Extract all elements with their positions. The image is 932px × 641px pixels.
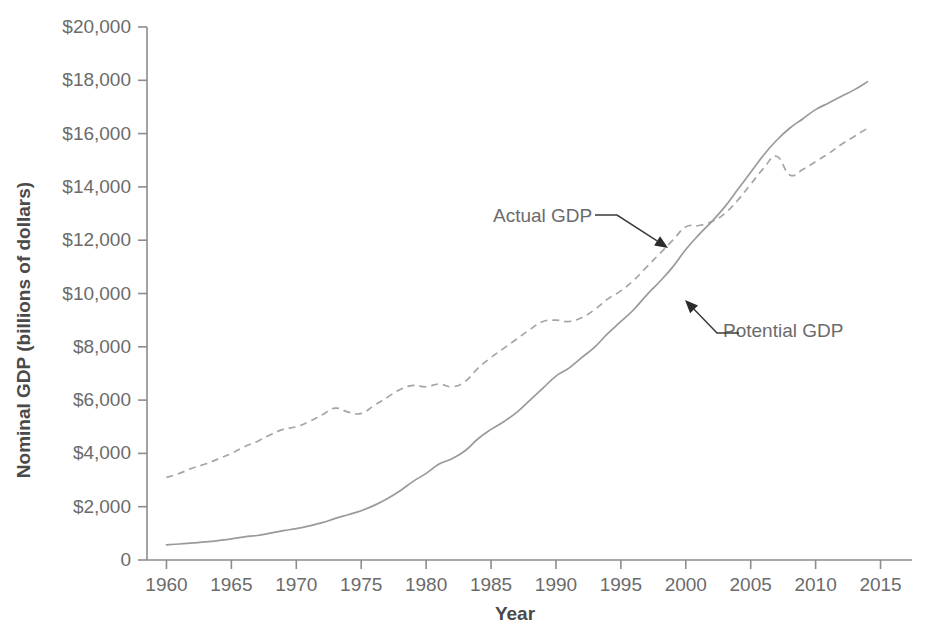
potential-gdp-annotation-label: Potential GDP — [723, 320, 843, 341]
actual-gdp-annotation-label: Actual GDP — [493, 205, 592, 226]
x-tick-label: 1980 — [405, 574, 447, 595]
x-tick-label: 2015 — [859, 574, 901, 595]
x-tick-label: 1990 — [535, 574, 577, 595]
x-tick-label: 1995 — [600, 574, 642, 595]
y-axis-tick-marks — [138, 27, 147, 560]
y-axis-tick-labels: 0$2,000$4,000$6,000$8,000$10,000$12,000$… — [62, 16, 131, 570]
y-tick-label: $16,000 — [62, 123, 131, 144]
x-tick-label: 1985 — [470, 574, 512, 595]
x-axis-tick-marks — [166, 560, 880, 569]
y-axis-title: Nominal GDP (billions of dollars) — [13, 182, 34, 478]
actual-gdp-annotation-arrowhead — [654, 236, 668, 248]
x-tick-label: 1965 — [210, 574, 252, 595]
y-tick-label: $2,000 — [73, 496, 131, 517]
chart-canvas: 0$2,000$4,000$6,000$8,000$10,000$12,000$… — [0, 0, 932, 641]
y-tick-label: 0 — [120, 549, 131, 570]
y-tick-label: $4,000 — [73, 442, 131, 463]
x-tick-label: 1960 — [145, 574, 187, 595]
y-tick-label: $10,000 — [62, 283, 131, 304]
x-axis-title: Year — [495, 603, 536, 624]
x-tick-label: 2000 — [665, 574, 707, 595]
y-tick-label: $8,000 — [73, 336, 131, 357]
gdp-chart: 0$2,000$4,000$6,000$8,000$10,000$12,000$… — [0, 0, 932, 641]
y-tick-label: $12,000 — [62, 229, 131, 250]
x-tick-label: 2010 — [794, 574, 836, 595]
y-tick-label: $6,000 — [73, 389, 131, 410]
y-tick-label: $14,000 — [62, 176, 131, 197]
y-tick-label: $18,000 — [62, 69, 131, 90]
actual-gdp-line — [166, 128, 867, 477]
x-axis-tick-labels: 1960196519701975198019851990199520002005… — [145, 574, 901, 595]
x-tick-label: 1970 — [275, 574, 317, 595]
x-tick-label: 2005 — [730, 574, 772, 595]
x-tick-label: 1975 — [340, 574, 382, 595]
actual-gdp-annotation-leader — [595, 215, 657, 241]
potential-gdp-line — [166, 82, 867, 545]
y-tick-label: $20,000 — [62, 16, 131, 37]
